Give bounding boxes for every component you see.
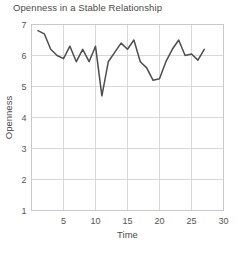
svg-text:3: 3 [21,144,26,154]
svg-text:4: 4 [21,113,26,123]
chart-container: Openness in a Stable Relationship 123456… [0,0,238,261]
svg-text:25: 25 [186,216,196,226]
svg-text:1: 1 [21,206,26,216]
svg-text:30: 30 [218,216,228,226]
svg-text:20: 20 [154,216,164,226]
x-axis-label: Time [117,229,138,240]
svg-text:10: 10 [90,216,100,226]
svg-text:7: 7 [21,20,26,30]
svg-text:2: 2 [21,175,26,185]
y-axis-ticks: 1234567 [21,20,26,216]
svg-text:5: 5 [61,216,66,226]
y-axis-label: Openness [3,96,14,140]
svg-text:5: 5 [21,82,26,92]
svg-text:6: 6 [21,51,26,61]
svg-text:15: 15 [122,216,132,226]
x-axis-ticks: 51015202530 [61,216,229,226]
chart-plot: 1234567 51015202530 Openness Time [0,0,238,261]
gridlines [32,25,224,211]
